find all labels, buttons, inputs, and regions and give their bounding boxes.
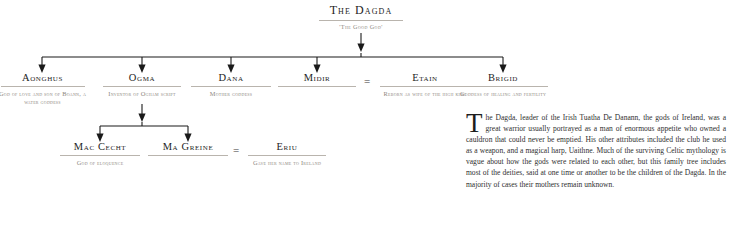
node-mac-cecht[interactable]: Mac Cecht God of eloquence: [55, 141, 145, 167]
node-rule: [248, 155, 326, 156]
node-brigid[interactable]: Brigid Goddess of healing and fertility: [455, 72, 551, 98]
marriage-equals-midir-etain: =: [364, 76, 370, 87]
root-connector: [357, 33, 364, 52]
node-name-brigid: Brigid: [455, 72, 551, 85]
node-rule: [103, 86, 181, 87]
article-body: The Dagda, leader of the Irish Tuatha De…: [466, 112, 726, 190]
node-the-dagda[interactable]: The Dagda 'The Good God': [296, 4, 426, 31]
node-name-aonghus: Aonghus: [0, 72, 91, 85]
article-dropcap: T: [466, 112, 485, 133]
node-desc-dana: Mother goddess: [186, 90, 276, 98]
gen1-drop-aonghus: [38, 57, 45, 73]
node-name-ma-greine: Ma Greine: [145, 141, 231, 154]
gen2-drop-ma-greine: [184, 126, 191, 142]
node-aonghus[interactable]: Aonghus God of love and son of Boann, a …: [0, 72, 91, 106]
node-eriu[interactable]: Eriu Gave her name to Ireland: [243, 141, 331, 167]
article-text: he Dagda, leader of the Irish Tuatha De …: [466, 113, 726, 189]
gen1-drop-midir: [313, 57, 320, 73]
node-desc-aonghus: God of love and son of Boann, a water go…: [0, 90, 91, 107]
gen1-drop-dana: [227, 57, 234, 73]
node-dana[interactable]: Dana Mother goddess: [186, 72, 276, 98]
node-desc-eriu: Gave her name to Ireland: [243, 159, 331, 167]
node-midir[interactable]: Midir: [275, 72, 359, 90]
marriage-equals-ma-greine-eriu: =: [233, 145, 239, 156]
ogma-to-gen2-connector: [138, 104, 145, 122]
node-name-mac-cecht: Mac Cecht: [55, 141, 145, 154]
node-ogma[interactable]: Ogma Inventor of Ogham script: [97, 72, 187, 98]
gen1-drop-ogma: [138, 57, 145, 73]
node-name-the-dagda: The Dagda: [296, 4, 426, 19]
node-ma-greine[interactable]: Ma Greine: [145, 141, 231, 159]
node-name-midir: Midir: [275, 72, 359, 85]
node-name-dana: Dana: [186, 72, 276, 85]
family-tree-diagram: The Dagda 'The Good God' Aonghus God of …: [0, 0, 730, 240]
node-rule: [319, 20, 403, 21]
gen2-drop-mac-cecht: [96, 126, 103, 142]
node-rule: [1, 86, 85, 87]
node-rule: [60, 155, 140, 156]
node-name-ogma: Ogma: [97, 72, 187, 85]
node-rule: [278, 86, 356, 87]
node-desc-the-dagda: 'The Good God': [296, 23, 426, 31]
node-rule: [148, 155, 228, 156]
node-rule: [458, 86, 548, 87]
node-desc-ogma: Inventor of Ogham script: [97, 90, 187, 98]
gen1-drop-brigid: [499, 57, 506, 73]
node-name-eriu: Eriu: [243, 141, 331, 154]
node-desc-brigid: Goddess of healing and fertility: [455, 90, 551, 98]
node-rule: [191, 86, 271, 87]
node-desc-mac-cecht: God of eloquence: [55, 159, 145, 167]
